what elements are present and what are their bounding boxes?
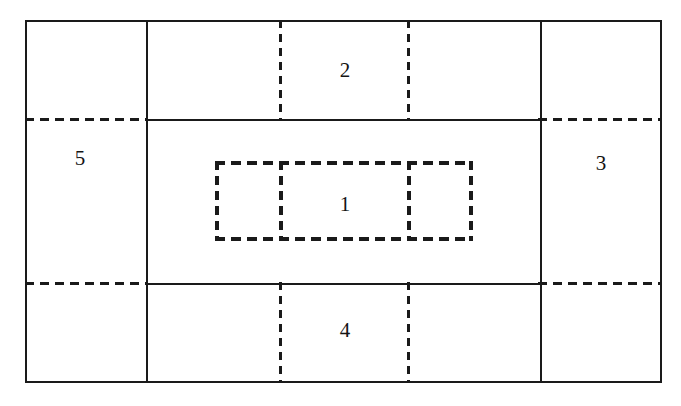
diagram-canvas: 1 2 3 4 5 [0, 0, 681, 406]
region-label-4: 4 [340, 320, 351, 341]
dashed-vertical-bottom-right-line [407, 282, 410, 383]
region-label-5: 5 [75, 148, 86, 169]
dashed-horizontal-lower-right-line [538, 282, 662, 285]
vertical-left-divider-line [146, 20, 148, 383]
inner-rect-bottom-edge [215, 237, 473, 241]
dashed-horizontal-lower-left-line [25, 282, 148, 285]
horizontal-lower-divider-line [146, 283, 540, 285]
inner-rect-top-edge [215, 161, 473, 165]
inner-dashed-divider-right-line [407, 161, 411, 241]
dashed-vertical-top-right-line [407, 20, 410, 121]
inner-rect-right-edge [469, 161, 473, 241]
dashed-horizontal-upper-right-line [538, 118, 662, 121]
horizontal-upper-divider-line [146, 119, 540, 121]
dashed-horizontal-upper-left-line [25, 118, 148, 121]
region-label-2: 2 [340, 60, 351, 81]
region-label-1: 1 [340, 194, 351, 215]
region-label-3: 3 [596, 153, 607, 174]
inner-dashed-divider-left-line [279, 161, 283, 241]
vertical-right-divider-line [540, 20, 542, 383]
dashed-vertical-bottom-left-line [279, 282, 282, 383]
inner-rect-left-edge [215, 161, 219, 241]
dashed-vertical-top-left-line [279, 20, 282, 121]
